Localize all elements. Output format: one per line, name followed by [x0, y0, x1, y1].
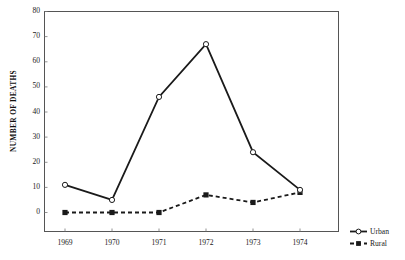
- series-markers-urban: [62, 42, 302, 203]
- data-point: [297, 187, 302, 192]
- legend-item-urban: Urban: [350, 225, 405, 237]
- data-point: [203, 42, 208, 47]
- data-point: [250, 200, 255, 205]
- data-point: [156, 94, 161, 99]
- plot-frame: [45, 12, 339, 232]
- legend-label-rural: Rural: [367, 239, 387, 248]
- data-point: [62, 210, 67, 215]
- data-point: [250, 150, 255, 155]
- legend-label-urban: Urban: [367, 227, 389, 236]
- plot-area: [0, 0, 405, 260]
- open-circle-icon: [350, 226, 367, 237]
- data-point: [109, 197, 114, 202]
- chart-legend: Urban Rural: [350, 225, 405, 249]
- data-point: [109, 210, 114, 215]
- data-point: [203, 192, 208, 197]
- data-point: [156, 210, 161, 215]
- legend-item-rural: Rural: [350, 237, 405, 249]
- filled-square-icon: [350, 238, 367, 249]
- line-chart: NUMBER OF DEATHS 80 70 60 50 40 30 20 10…: [0, 0, 405, 260]
- series-line-urban: [65, 44, 300, 200]
- series-markers-rural: [62, 190, 302, 215]
- data-point: [62, 182, 67, 187]
